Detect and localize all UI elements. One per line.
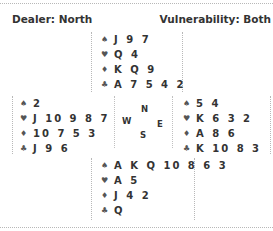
south-hearts: A 5 — [114, 175, 139, 186]
south-hand: ♠A K Q 10 8 6 3 ♥A 5 ♦J 4 2 ♣Q — [91, 158, 195, 220]
spade-icon: ♠ — [101, 32, 114, 47]
west-spades: 2 — [33, 98, 42, 109]
club-icon: ♣ — [20, 141, 33, 156]
north-spades: J 9 7 — [114, 34, 151, 45]
east-hand: ♠5 4 ♥K 6 3 2 ♦A 8 6 ♣K 10 8 3 — [175, 96, 271, 154]
dealer-label: Dealer: North — [12, 13, 92, 25]
west-spades-row: ♠2 — [20, 96, 92, 111]
compass-west: W — [122, 116, 131, 126]
east-spades: 5 4 — [196, 98, 220, 109]
west-diamonds: 10 7 5 3 — [33, 128, 97, 139]
deal-header: Dealer: North Vulnerability: Both — [0, 13, 273, 27]
north-diamonds: K Q 9 — [114, 64, 156, 75]
heart-icon: ♥ — [183, 111, 196, 126]
west-hand: ♠2 ♥J 10 9 8 7 ♦10 7 5 3 ♣J 9 6 — [12, 96, 92, 154]
south-spades: A K Q 10 8 6 3 — [114, 160, 228, 171]
compass: N W E S — [114, 96, 173, 148]
compass-north: N — [141, 104, 148, 114]
spade-icon: ♠ — [183, 96, 196, 111]
compass-south: S — [140, 130, 146, 140]
west-clubs-row: ♣J 9 6 — [20, 141, 92, 156]
east-diamonds: A 8 6 — [196, 128, 237, 139]
east-spades-row: ♠5 4 — [183, 96, 270, 111]
club-icon: ♣ — [183, 141, 196, 156]
east-clubs-row: ♣K 10 8 3 — [183, 141, 270, 156]
diamond-icon: ♦ — [101, 62, 114, 77]
diamond-icon: ♦ — [183, 126, 196, 141]
west-diamonds-row: ♦10 7 5 3 — [20, 126, 92, 141]
south-diamonds-row: ♦J 4 2 — [101, 188, 194, 203]
west-hearts: J 10 9 8 7 — [33, 113, 109, 124]
heart-icon: ♥ — [101, 173, 114, 188]
east-clubs: K 10 8 3 — [196, 143, 261, 154]
west-clubs: J 9 6 — [33, 143, 70, 154]
heart-icon: ♥ — [20, 111, 33, 126]
east-hearts-row: ♥K 6 3 2 — [183, 111, 270, 126]
north-hand: ♠J 9 7 ♥Q 4 ♦K Q 9 ♣A 7 5 4 2 — [91, 32, 183, 92]
spade-icon: ♠ — [20, 96, 33, 111]
west-hearts-row: ♥J 10 9 8 7 — [20, 111, 92, 126]
south-clubs-row: ♣Q — [101, 203, 194, 218]
diamond-icon: ♦ — [20, 126, 33, 141]
diamond-icon: ♦ — [101, 188, 114, 203]
east-hearts: K 6 3 2 — [196, 113, 252, 124]
north-clubs-row: ♣A 7 5 4 2 — [101, 77, 182, 92]
south-diamonds: J 4 2 — [114, 190, 151, 201]
south-spades-row: ♠A K Q 10 8 6 3 — [101, 158, 194, 173]
top-divider — [0, 3, 273, 4]
bottom-divider — [0, 227, 273, 228]
club-icon: ♣ — [101, 203, 114, 218]
north-spades-row: ♠J 9 7 — [101, 32, 182, 47]
south-hearts-row: ♥A 5 — [101, 173, 194, 188]
south-clubs: Q — [114, 205, 125, 216]
north-hearts-row: ♥Q 4 — [101, 47, 182, 62]
heart-icon: ♥ — [101, 47, 114, 62]
spade-icon: ♠ — [101, 158, 114, 173]
east-diamonds-row: ♦A 8 6 — [183, 126, 270, 141]
north-hearts: Q 4 — [114, 49, 140, 60]
north-diamonds-row: ♦K Q 9 — [101, 62, 182, 77]
vulnerability-label: Vulnerability: Both — [160, 13, 271, 25]
club-icon: ♣ — [101, 77, 114, 92]
compass-east: E — [157, 119, 163, 129]
north-clubs: A 7 5 4 2 — [114, 79, 186, 90]
